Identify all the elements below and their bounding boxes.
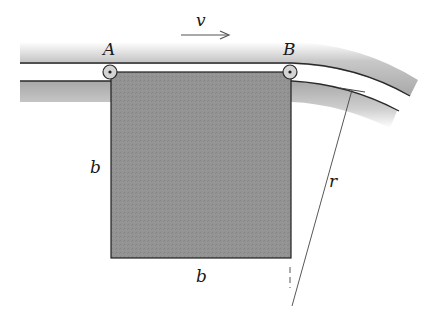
roller-b (283, 65, 297, 79)
velocity-arrow-icon (181, 31, 229, 39)
velocity-label: v (196, 10, 206, 30)
radius-dimension (290, 88, 365, 306)
radius-label: r (329, 171, 338, 191)
square-plate (111, 72, 291, 258)
side-vertical-label: b (90, 157, 101, 177)
point-b-label: B (282, 39, 296, 59)
side-horizontal-label: b (196, 266, 207, 286)
diagram-canvas: v A B b b r (0, 0, 436, 321)
roller-a (103, 65, 117, 79)
point-a-label: A (101, 39, 115, 59)
